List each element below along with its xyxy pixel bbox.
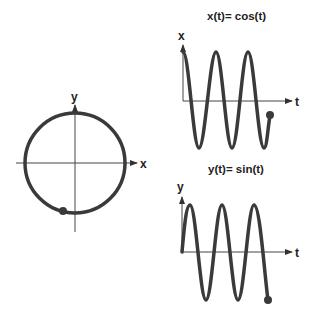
- cos-end-marker: [266, 111, 274, 119]
- sin-end-marker: [264, 296, 272, 304]
- cos-y-label: x: [178, 29, 185, 43]
- cos-t-label: t: [295, 95, 299, 109]
- circle-plot: x y: [16, 90, 147, 232]
- circle-y-label: y: [71, 90, 78, 104]
- circle-point-marker: [59, 207, 67, 215]
- sin-plot: y(t)= sin(t) y t: [177, 163, 299, 304]
- parametric-circle-diagram: x y x(t)= cos(t) x t y(t)= sin(t) y t: [0, 0, 312, 315]
- circle-x-label: x: [140, 157, 147, 171]
- sin-t-label: t: [295, 246, 299, 260]
- sin-plot-title: y(t)= sin(t): [208, 163, 264, 175]
- cos-curve: [183, 52, 270, 148]
- sin-y-label: y: [177, 180, 184, 194]
- cos-plot-title: x(t)= cos(t): [207, 10, 266, 22]
- cos-plot: x(t)= cos(t) x t: [178, 10, 299, 148]
